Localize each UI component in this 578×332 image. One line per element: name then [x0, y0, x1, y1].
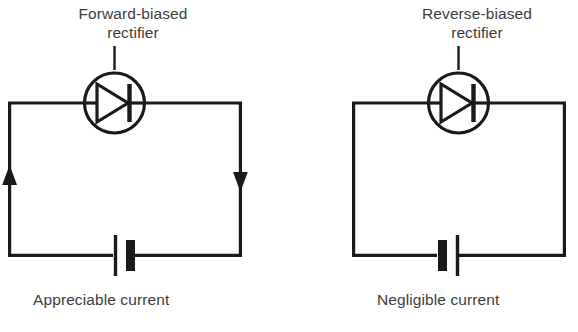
circuit-forward-biased: [2, 46, 248, 276]
arrowhead-down: [233, 172, 248, 192]
arrowhead-up: [2, 165, 17, 185]
battery-reverse: [438, 235, 458, 276]
current-arrow-down-right: [233, 172, 248, 192]
battery-forward: [116, 235, 136, 276]
rectifier-diode-reverse: [429, 73, 489, 133]
current-arrow-up-left: [2, 165, 17, 185]
rectifier-diode-forward: [85, 73, 145, 133]
battery-negative-plate-icon: [126, 240, 135, 271]
circuit-comparison-figure: Forward-biased rectifier Reverse-biased …: [0, 0, 578, 332]
circuit-drawing-layer: [0, 0, 578, 332]
circuit-reverse-biased: [352, 46, 566, 276]
battery-negative-plate-icon: [438, 240, 447, 271]
